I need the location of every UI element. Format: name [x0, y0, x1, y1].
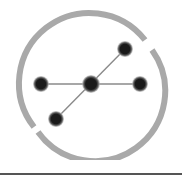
network-graph-icon	[0, 0, 182, 160]
node-top-right	[117, 41, 133, 57]
node-right	[132, 76, 148, 92]
divider-line	[0, 173, 182, 175]
ring-arc-lower	[38, 50, 165, 160]
node-center	[82, 75, 100, 93]
network-logo	[0, 0, 182, 160]
node-bottom-left	[48, 111, 64, 127]
ring-arc-upper	[19, 13, 145, 127]
node-left	[33, 76, 49, 92]
